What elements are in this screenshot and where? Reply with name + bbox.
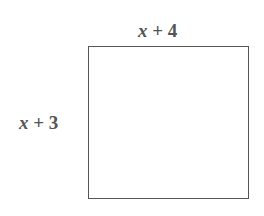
left-side-label: x + 3 (19, 113, 58, 132)
top-variable: x (138, 20, 148, 41)
top-side-label: x + 4 (138, 21, 177, 40)
top-operator: + (152, 20, 163, 41)
left-constant: 3 (49, 112, 59, 133)
left-variable: x (19, 112, 29, 133)
rectangle-shape (88, 46, 249, 199)
left-operator: + (33, 112, 44, 133)
top-constant: 4 (168, 20, 178, 41)
